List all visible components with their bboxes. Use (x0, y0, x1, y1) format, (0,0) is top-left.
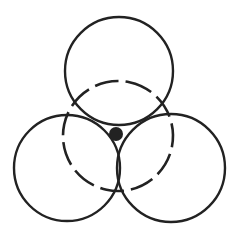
top-circle (65, 17, 173, 125)
circles-diagram (0, 0, 237, 229)
left-circle (14, 115, 120, 221)
right-circle (117, 114, 225, 222)
center-dot (109, 127, 123, 141)
